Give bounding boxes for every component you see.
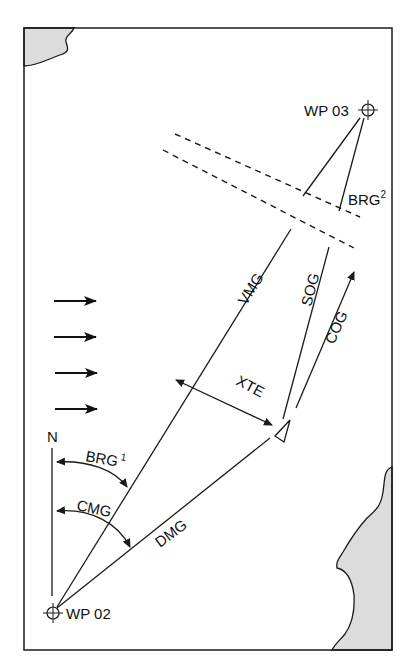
navigation-diagram: N WP 02 WP 03 BRG2 VMG SOG COG XTE DMG B… (0, 0, 412, 663)
brg1-label: BRG1 (84, 445, 127, 471)
xte-label: XTE (234, 372, 268, 401)
dashed-corridor-line-upper (175, 134, 360, 217)
coastline-bottom-right (332, 467, 392, 650)
wp03-label: WP 03 (304, 102, 349, 119)
north-label: N (47, 428, 58, 445)
boat-triangle-icon (275, 420, 290, 442)
brg2-label: BRG2 (348, 189, 387, 208)
wind-arrows (54, 301, 97, 409)
dmg-label: DMG (152, 516, 190, 551)
wp02-label: WP 02 (66, 605, 111, 622)
cmg-label: CMG (75, 496, 113, 520)
vmg-line-upper (303, 118, 360, 196)
cog-label: COG (321, 308, 350, 346)
coastline-top-left (24, 28, 74, 66)
sog-label: SOG (297, 271, 322, 308)
wp03-crosshair-icon (358, 100, 378, 120)
